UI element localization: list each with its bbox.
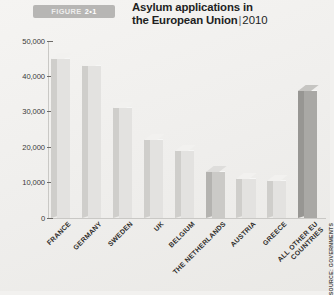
x-axis-category-label: GERMANY [72,220,104,252]
bar-front-face [57,58,70,218]
bar [82,66,101,218]
x-axis-category-labels: FRANCEGERMANYSWEDENUKBELGIUMTHE NETHERLA… [48,220,330,291]
y-axis-tick: 50,000 [0,37,54,46]
bar-front-face [304,90,317,218]
figure-header: FIGURE 2•1 Asylum applications in the Eu… [0,0,330,36]
bar-front-face [242,178,255,218]
y-axis-tick-label: 20,000 [22,143,45,152]
category-label-line: FRANCE [46,220,72,246]
category-label-line: BELGIUM [167,220,196,249]
y-axis-tick-label: 30,000 [22,107,45,116]
figure-title-year: 2010 [242,14,267,26]
y-axis-tick: 0 [0,214,54,223]
figure-title: Asylum applications in the European Unio… [132,1,330,26]
figure-number-badge: FIGURE 2•1 [33,5,115,18]
y-axis-tick: 40,000 [0,72,54,81]
y-axis-tick-label: 40,000 [22,72,45,81]
x-axis-category-label: BELGIUM [167,220,197,250]
x-axis-category-label: GREECE [262,220,290,248]
x-axis-category-label: SWEDEN [106,220,134,248]
bar-front-face [119,107,132,218]
x-axis-category-label: UK [152,220,165,233]
category-label-line: GREECE [262,220,289,247]
figure-title-line-1: Asylum applications in [132,1,330,14]
bar-series [48,36,326,219]
figure-badge-number: 2•1 [85,7,97,16]
bar-front-face [212,171,225,218]
x-axis-category-label: FRANCE [46,220,73,247]
bar-front-face [273,180,286,218]
bar [267,181,286,218]
figure-title-text-2: the European Union [132,14,238,26]
figure-title-line-2: the European Union|2010 [132,14,330,27]
figure-badge-word: FIGURE [51,7,81,16]
bar [51,59,70,218]
y-axis-tick-label: 0 [41,214,45,223]
category-label-line: UK [152,220,164,232]
y-axis-tick: 20,000 [0,143,54,152]
bar [144,140,163,218]
bar [206,172,225,218]
bar [113,108,132,218]
category-label-line: AUSTRIA [230,220,258,248]
chart-plot-area: 010,00020,00030,00040,00050,000 FRANCEGE… [0,36,330,291]
y-axis-tick: 30,000 [0,107,54,116]
category-label-line: SWEDEN [106,220,133,247]
category-label-line: THE NETHERLANDS [171,220,227,276]
bar-front-face [150,139,163,218]
y-axis-tick: 10,000 [0,178,54,187]
bar-front-face [181,150,194,218]
source-note: SOURCE: GOVERNMENTS [328,223,334,295]
y-axis-tick-label: 10,000 [22,178,45,187]
y-axis-tick-label: 50,000 [22,37,45,46]
x-axis-category-label: AUSTRIA [230,220,259,249]
category-label-line: GERMANY [72,220,103,251]
x-axis-category-label: THE NETHERLANDS [171,220,228,277]
bar [298,91,317,218]
bar [236,179,255,218]
bar-front-face [88,65,101,218]
bar [175,151,194,218]
